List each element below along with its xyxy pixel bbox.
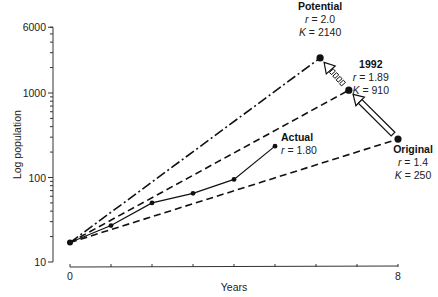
- x-axis-title: Years: [221, 281, 247, 293]
- annotation-title: Potential: [298, 0, 342, 12]
- annotation-title: Original: [393, 143, 433, 155]
- param-equals: =: [285, 144, 297, 156]
- arrow-shaft-segment: [340, 80, 346, 86]
- endpoint-potential: [317, 54, 324, 61]
- data-point-actual: [150, 201, 155, 206]
- arrow-shaft-segment: [333, 73, 339, 79]
- param-equals: =: [306, 26, 318, 38]
- y-tick-label: 100: [28, 172, 46, 184]
- annotation-title: 1992: [359, 58, 383, 70]
- endpoint-1992: [345, 87, 352, 94]
- data-point-actual: [232, 177, 237, 182]
- y-tick-label: 6000: [23, 21, 47, 33]
- annotation-1992: 1992r = 1.89K = 910: [353, 58, 390, 96]
- param-value: 1.80: [296, 144, 317, 156]
- annotation-param-r: r = 2.0: [305, 13, 335, 25]
- arrow-1992-to-potential: [324, 62, 345, 86]
- annotation-param-k: K = 250: [395, 169, 432, 181]
- annotation-param-r: r = 1.89: [353, 71, 389, 83]
- param-equals: =: [402, 169, 414, 181]
- axes: 1010010006000Log population08Years: [11, 21, 401, 293]
- arrow-original-to-1992: [353, 94, 395, 136]
- series-line-original: [70, 139, 398, 242]
- param-equals: =: [309, 13, 321, 25]
- markers: [67, 54, 402, 245]
- annotation-actual: Actualr = 1.80: [281, 131, 317, 156]
- arrow-shaft-segment: [336, 76, 342, 82]
- param-value: 2.0: [321, 13, 336, 25]
- chart: 1010010006000Log population08Years Actua…: [0, 0, 438, 297]
- series-line-actual: [70, 146, 275, 242]
- annotation-param-r: r = 1.4: [398, 156, 428, 168]
- y-axis-title: Log population: [11, 110, 23, 179]
- annotation-param-k: K = 2140: [299, 26, 342, 38]
- param-value: 1.4: [413, 156, 428, 168]
- param-equals: =: [360, 84, 372, 96]
- annotation-original: Originalr = 1.4K = 250: [393, 143, 433, 181]
- series-line-1992: [70, 90, 349, 242]
- x-tick-label: 0: [67, 270, 73, 282]
- y-tick-label: 10: [34, 256, 46, 268]
- param-value: 2140: [318, 26, 342, 38]
- endpoint-original: [394, 135, 401, 142]
- annotation-param-r: r = 1.80: [281, 144, 317, 156]
- annotation-title: Actual: [281, 131, 313, 143]
- param-equals: =: [356, 71, 368, 83]
- x-tick-label: 8: [395, 270, 401, 282]
- param-value: 910: [372, 84, 390, 96]
- data-point-actual: [273, 144, 278, 149]
- start-point: [67, 240, 73, 246]
- param-value: 1.89: [368, 71, 389, 83]
- annotations: Actualr = 1.80Potentialr = 2.0K = 214019…: [281, 0, 433, 181]
- param-value: 250: [414, 169, 432, 181]
- annotation-potential: Potentialr = 2.0K = 2140: [298, 0, 342, 38]
- y-tick-label: 1000: [23, 87, 47, 99]
- annotation-param-k: K = 910: [353, 84, 390, 96]
- arrow-shaft: [358, 100, 395, 136]
- series-lines: [70, 58, 398, 243]
- data-point-actual: [109, 223, 114, 228]
- data-point-actual: [191, 191, 196, 196]
- param-equals: =: [401, 156, 413, 168]
